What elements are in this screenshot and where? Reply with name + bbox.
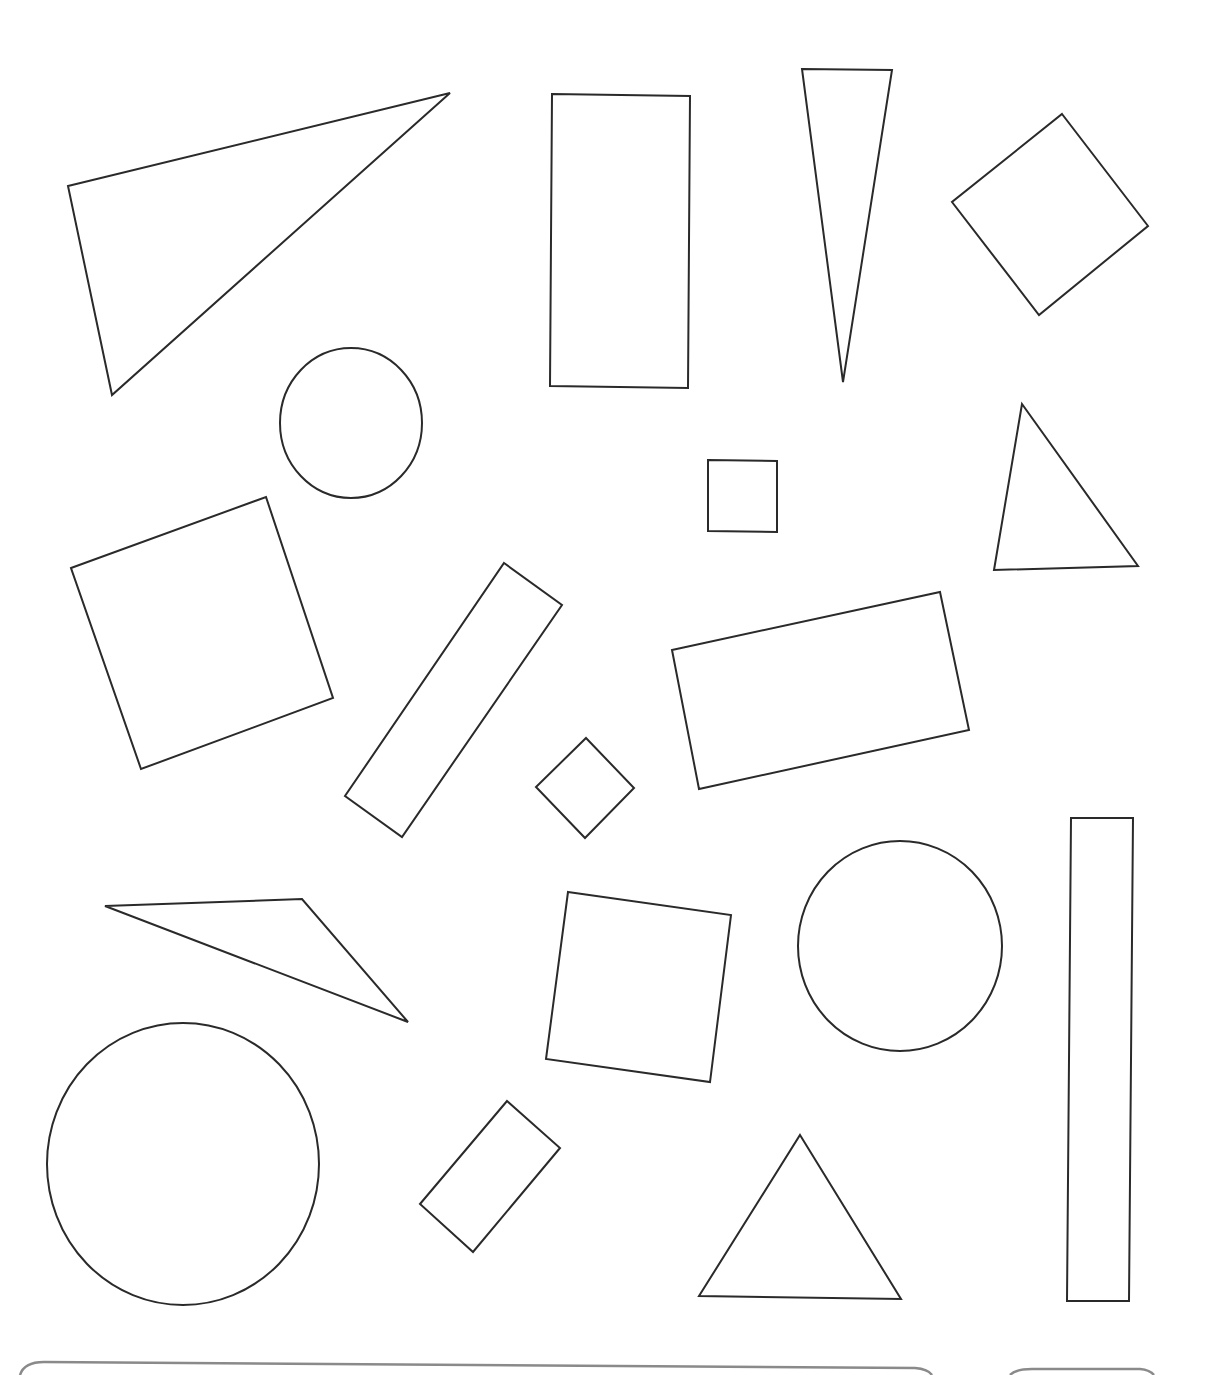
circle-large-bottom-left: [47, 1023, 319, 1305]
triangle-large-top-left: [68, 93, 450, 395]
triangle-flat-left: [105, 899, 408, 1022]
rectangle-tall-right: [1067, 818, 1133, 1301]
square-rotated-left: [71, 497, 333, 769]
circle-small-upper: [280, 348, 422, 498]
rectangle-tilted-right: [672, 592, 969, 789]
triangle-bottom-center: [699, 1135, 901, 1299]
rectangle-small-rotated-bottom: [420, 1101, 560, 1252]
rectangle-tall-top-center: [550, 94, 690, 388]
diamond-small-center: [536, 738, 634, 838]
square-tilted-center: [546, 892, 731, 1082]
answer-box-small: [1010, 1369, 1154, 1375]
square-rotated-top-right: [952, 114, 1148, 315]
answer-box-wide: [20, 1362, 932, 1375]
square-small-center: [708, 460, 777, 532]
shapes-worksheet-canvas: [0, 0, 1207, 1375]
circle-medium-right: [798, 841, 1002, 1051]
triangle-right-middle: [994, 404, 1138, 570]
triangle-thin-top: [802, 69, 892, 382]
bar-diagonal-center: [345, 563, 562, 837]
